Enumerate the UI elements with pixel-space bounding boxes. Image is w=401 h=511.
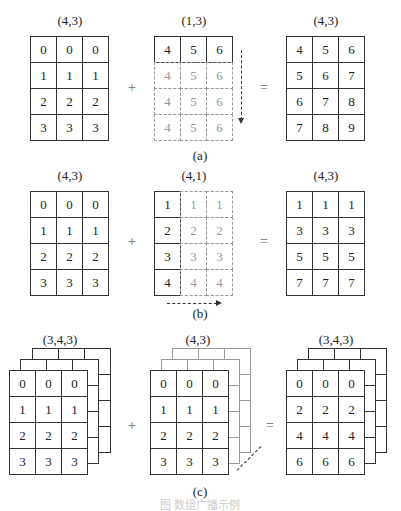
equals-operator: = <box>260 80 268 96</box>
grid-cell: 3 <box>82 269 109 296</box>
grid-cell: 6 <box>312 448 339 475</box>
shape-label: (4,3) <box>286 13 366 29</box>
broadcast-arrow-right <box>167 303 217 304</box>
ghost-cell: 3 <box>206 243 233 270</box>
grid-cell: 1 <box>56 217 83 244</box>
ghost-cell: 3 <box>180 243 207 270</box>
grid-cell: 3 <box>286 217 313 244</box>
grid-cell: 2 <box>176 422 203 449</box>
ghost-cell: 2 <box>180 217 207 244</box>
grid-cell: 5 <box>312 36 339 63</box>
shape-label: (1,3) <box>154 13 234 29</box>
grid-cell: 3 <box>30 269 57 296</box>
grid-cell: 9 <box>338 114 365 141</box>
grid-cell: 4 <box>154 36 181 63</box>
grid-cell: 3 <box>56 269 83 296</box>
ghost-cell: 1 <box>206 191 233 218</box>
grid-cell: 0 <box>9 370 36 397</box>
grid-cell: 7 <box>338 269 365 296</box>
grid-cell: 0 <box>56 36 83 63</box>
grid-cell: 0 <box>30 36 57 63</box>
grid-cell: 3 <box>202 448 229 475</box>
grid-cell: 0 <box>82 36 109 63</box>
figure-caption: 图 数组广播示例 <box>130 496 270 511</box>
ghost-cell: 4 <box>154 114 181 141</box>
ghost-cell: 4 <box>154 62 181 89</box>
arrow-head-icon <box>238 118 244 124</box>
grid-cell: 3 <box>56 114 83 141</box>
grid-cell: 4 <box>312 422 339 449</box>
ghost-cell: 4 <box>206 269 233 296</box>
broadcast-arrow-down <box>241 50 242 120</box>
plus-operator: + <box>128 418 136 434</box>
grid-cell: 7 <box>312 88 339 115</box>
grid-cell: 5 <box>180 36 207 63</box>
grid-cell: 0 <box>312 370 339 397</box>
equals-operator: = <box>266 418 274 434</box>
grid-cell: 4 <box>286 36 313 63</box>
ghost-cell: 1 <box>180 191 207 218</box>
shape-label: (4,3) <box>30 13 110 29</box>
ghost-cell: 6 <box>206 62 233 89</box>
grid-cell: 4 <box>338 422 365 449</box>
grid-cell: 1 <box>150 396 177 423</box>
grid-cell: 6 <box>286 88 313 115</box>
grid-cell: 7 <box>338 62 365 89</box>
grid-cell: 0 <box>286 370 313 397</box>
grid-cell: 5 <box>286 62 313 89</box>
ghost-cell: 5 <box>180 62 207 89</box>
grid-cell: 3 <box>82 114 109 141</box>
grid-cell: 0 <box>30 191 57 218</box>
grid-cell: 2 <box>82 88 109 115</box>
grid-cell: 2 <box>30 243 57 270</box>
grid-cell: 1 <box>35 396 62 423</box>
grid-cell: 1 <box>82 217 109 244</box>
shape-label: (3,4,3) <box>20 332 100 348</box>
ghost-cell: 2 <box>206 217 233 244</box>
grid-cell: 1 <box>30 62 57 89</box>
grid-cell: 2 <box>154 217 181 244</box>
grid-cell: 2 <box>312 396 339 423</box>
ghost-cell: 5 <box>180 114 207 141</box>
grid-cell: 0 <box>61 370 88 397</box>
grid-cell: 3 <box>338 217 365 244</box>
shape-label: (4,3) <box>158 332 238 348</box>
ghost-cell: 4 <box>180 269 207 296</box>
grid-cell: 3 <box>9 448 36 475</box>
grid-cell: 8 <box>312 114 339 141</box>
grid-cell: 3 <box>30 114 57 141</box>
grid-cell: 0 <box>202 370 229 397</box>
grid-cell: 2 <box>30 88 57 115</box>
plus-operator: + <box>128 234 136 250</box>
plus-operator: + <box>128 80 136 96</box>
grid-cell: 2 <box>35 422 62 449</box>
grid-cell: 0 <box>150 370 177 397</box>
grid-cell: 3 <box>150 448 177 475</box>
shape-label: (4,1) <box>154 168 234 184</box>
grid-cell: 0 <box>338 370 365 397</box>
grid-cell: 5 <box>312 243 339 270</box>
grid-cell: 2 <box>56 88 83 115</box>
panel-label: (b) <box>185 306 215 322</box>
grid-cell: 2 <box>338 396 365 423</box>
equals-operator: = <box>260 234 268 250</box>
grid-cell: 1 <box>286 191 313 218</box>
grid-cell: 3 <box>154 243 181 270</box>
shape-label: (4,3) <box>30 168 110 184</box>
grid-cell: 7 <box>286 114 313 141</box>
grid-cell: 6 <box>338 448 365 475</box>
grid-cell: 1 <box>154 191 181 218</box>
grid-cell: 2 <box>82 243 109 270</box>
grid-cell: 3 <box>35 448 62 475</box>
grid-cell: 4 <box>286 422 313 449</box>
shape-label: (4,3) <box>286 168 366 184</box>
grid-cell: 6 <box>206 36 233 63</box>
grid-cell: 0 <box>82 191 109 218</box>
ghost-cell: 6 <box>206 114 233 141</box>
grid-cell: 1 <box>82 62 109 89</box>
ghost-cell: 4 <box>154 88 181 115</box>
grid-cell: 1 <box>312 191 339 218</box>
grid-cell: 2 <box>202 422 229 449</box>
grid-cell: 0 <box>176 370 203 397</box>
grid-cell: 2 <box>150 422 177 449</box>
